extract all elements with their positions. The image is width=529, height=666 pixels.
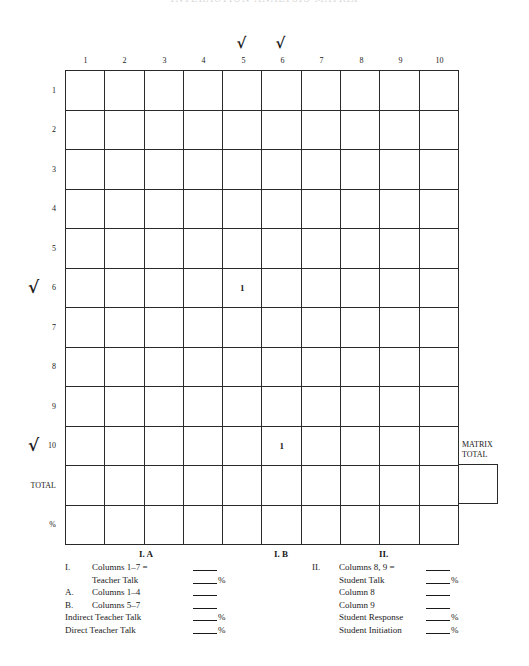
matrix-cell[interactable] xyxy=(66,426,105,466)
matrix-cell[interactable] xyxy=(105,426,144,466)
matrix-cell[interactable] xyxy=(380,150,419,190)
matrix-cell[interactable] xyxy=(380,189,419,229)
matrix-cell[interactable] xyxy=(183,189,222,229)
matrix-cell[interactable] xyxy=(105,229,144,269)
matrix-cell[interactable] xyxy=(183,268,222,308)
matrix-cell[interactable] xyxy=(380,347,419,387)
matrix-cell[interactable] xyxy=(419,150,458,190)
matrix-cell[interactable] xyxy=(380,268,419,308)
total-cell[interactable] xyxy=(262,466,301,506)
matrix-cell[interactable] xyxy=(105,71,144,111)
percent-cell[interactable] xyxy=(341,505,380,545)
blank-field[interactable] xyxy=(193,599,217,609)
matrix-cell[interactable] xyxy=(341,268,380,308)
percent-cell[interactable] xyxy=(223,505,262,545)
matrix-cell[interactable] xyxy=(341,229,380,269)
matrix-total-box[interactable] xyxy=(459,464,498,504)
matrix-cell[interactable] xyxy=(105,150,144,190)
blank-field[interactable] xyxy=(426,574,450,584)
total-cell[interactable] xyxy=(144,466,183,506)
matrix-cell[interactable] xyxy=(183,110,222,150)
matrix-cell[interactable] xyxy=(66,110,105,150)
matrix-cell[interactable] xyxy=(341,189,380,229)
matrix-cell[interactable] xyxy=(341,308,380,348)
matrix-cell[interactable] xyxy=(105,347,144,387)
matrix-cell[interactable] xyxy=(380,110,419,150)
total-cell[interactable] xyxy=(301,466,340,506)
matrix-cell[interactable] xyxy=(144,110,183,150)
matrix-cell[interactable] xyxy=(223,229,262,269)
matrix-cell[interactable] xyxy=(183,426,222,466)
matrix-cell[interactable] xyxy=(144,387,183,427)
matrix-cell[interactable] xyxy=(301,426,340,466)
matrix-cell[interactable] xyxy=(419,387,458,427)
total-cell[interactable] xyxy=(380,466,419,506)
matrix-cell[interactable] xyxy=(262,268,301,308)
matrix-cell[interactable] xyxy=(341,426,380,466)
matrix-cell[interactable] xyxy=(66,387,105,427)
matrix-cell[interactable] xyxy=(144,347,183,387)
matrix-cell[interactable] xyxy=(223,426,262,466)
matrix-cell[interactable] xyxy=(223,308,262,348)
matrix-cell[interactable] xyxy=(341,150,380,190)
matrix-cell[interactable] xyxy=(105,268,144,308)
percent-cell[interactable] xyxy=(301,505,340,545)
matrix-cell[interactable] xyxy=(223,110,262,150)
matrix-cell[interactable] xyxy=(144,189,183,229)
matrix-cell[interactable] xyxy=(66,268,105,308)
matrix-cell[interactable] xyxy=(262,71,301,111)
percent-cell[interactable] xyxy=(66,505,105,545)
blank-field[interactable] xyxy=(193,574,217,584)
matrix-cell[interactable] xyxy=(183,150,222,190)
matrix-cell[interactable] xyxy=(144,426,183,466)
matrix-cell[interactable] xyxy=(419,268,458,308)
percent-cell[interactable] xyxy=(380,505,419,545)
matrix-cell[interactable] xyxy=(66,308,105,348)
matrix-cell[interactable] xyxy=(301,150,340,190)
matrix-cell[interactable] xyxy=(66,189,105,229)
matrix-cell[interactable] xyxy=(380,308,419,348)
matrix-cell[interactable] xyxy=(183,229,222,269)
matrix-cell[interactable] xyxy=(144,150,183,190)
blank-field[interactable] xyxy=(193,624,217,634)
matrix-cell[interactable] xyxy=(419,189,458,229)
matrix-cell[interactable] xyxy=(380,229,419,269)
matrix-cell[interactable] xyxy=(144,268,183,308)
blank-field[interactable] xyxy=(193,561,217,571)
matrix-cell[interactable] xyxy=(183,347,222,387)
matrix-cell[interactable] xyxy=(301,308,340,348)
matrix-cell[interactable] xyxy=(419,347,458,387)
matrix-cell[interactable] xyxy=(105,189,144,229)
matrix-cell[interactable] xyxy=(223,71,262,111)
total-cell[interactable] xyxy=(105,466,144,506)
matrix-cell[interactable] xyxy=(419,426,458,466)
matrix-cell[interactable] xyxy=(223,189,262,229)
total-cell[interactable] xyxy=(183,466,222,506)
percent-cell[interactable] xyxy=(262,505,301,545)
matrix-cell[interactable] xyxy=(301,71,340,111)
matrix-cell[interactable] xyxy=(183,71,222,111)
percent-cell[interactable] xyxy=(183,505,222,545)
matrix-cell[interactable] xyxy=(341,347,380,387)
matrix-cell[interactable] xyxy=(262,387,301,427)
matrix-cell-r10c6[interactable]: 1 xyxy=(262,426,301,466)
matrix-cell[interactable] xyxy=(380,71,419,111)
matrix-cell[interactable] xyxy=(341,387,380,427)
matrix-cell[interactable] xyxy=(419,110,458,150)
matrix-cell[interactable] xyxy=(144,229,183,269)
matrix-cell[interactable] xyxy=(380,426,419,466)
percent-cell[interactable] xyxy=(105,505,144,545)
matrix-cell[interactable] xyxy=(301,229,340,269)
blank-field[interactable] xyxy=(426,624,450,634)
matrix-cell[interactable] xyxy=(223,387,262,427)
total-cell[interactable] xyxy=(223,466,262,506)
blank-field[interactable] xyxy=(426,586,450,596)
matrix-cell[interactable] xyxy=(66,71,105,111)
matrix-cell[interactable] xyxy=(301,268,340,308)
total-cell[interactable] xyxy=(341,466,380,506)
matrix-cell[interactable] xyxy=(223,150,262,190)
matrix-cell[interactable] xyxy=(183,308,222,348)
matrix-cell[interactable] xyxy=(105,308,144,348)
matrix-cell[interactable] xyxy=(341,71,380,111)
matrix-cell[interactable] xyxy=(419,71,458,111)
